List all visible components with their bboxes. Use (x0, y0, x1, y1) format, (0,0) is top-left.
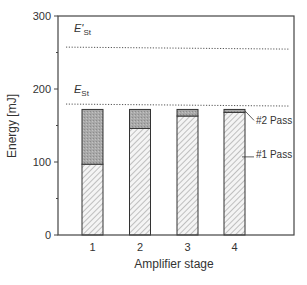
y-tick-label: 300 (33, 10, 51, 22)
annotation-pass2: #2 Pass (256, 115, 292, 126)
bar-segment-pass2 (224, 109, 245, 112)
y-axis-title: Energy [mJ] (5, 94, 19, 158)
reference-line (66, 47, 290, 49)
bar-segment-pass2 (130, 109, 151, 128)
annotation-leader-pass2 (245, 111, 254, 120)
axes: 01002003001234 (33, 10, 294, 253)
x-tick-label: 1 (89, 241, 95, 253)
bar-segment-pass1 (224, 112, 245, 235)
ref-line-label-upper: E'St (74, 22, 92, 37)
y-tick-label: 200 (33, 83, 51, 95)
y-tick-label: 100 (33, 156, 51, 168)
annotation-pass1: #1 Pass (256, 149, 292, 160)
bar-segment-pass2 (177, 109, 198, 116)
x-axis-title: Amplifier stage (134, 257, 214, 271)
bar-segment-pass1 (130, 128, 151, 235)
plot-area (66, 47, 290, 235)
bar-segment-pass1 (82, 164, 103, 235)
bar-segment-pass2 (82, 109, 103, 164)
x-tick-label: 3 (184, 241, 190, 253)
bar-segment-pass1 (177, 116, 198, 235)
x-tick-label: 2 (137, 241, 143, 253)
energy-bar-chart: 01002003001234 Amplifier stage Energy [m… (0, 0, 307, 285)
y-tick-label: 0 (45, 229, 51, 241)
x-tick-label: 4 (231, 241, 237, 253)
reference-line (66, 104, 290, 106)
ref-line-label-lower: ESt (74, 83, 90, 98)
